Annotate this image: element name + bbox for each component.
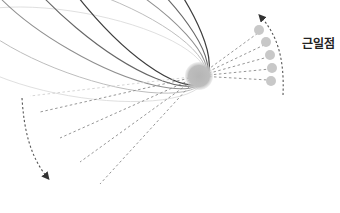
aphelion-direction-arrow-icon [22,98,47,177]
precession-diagram [0,0,340,213]
orbits-group [0,0,236,119]
perihelion-point [261,37,271,47]
sun-icon [185,62,213,90]
orbit-1 [0,0,213,119]
radial-dashed-lines [30,33,270,184]
orbit-3 [0,0,226,116]
perihelion-point [266,76,276,86]
perihelion-point [265,50,275,60]
orbit-5 [2,0,236,108]
perihelion-label: 근일점 [302,34,335,51]
orbit-2 [0,0,220,118]
perihelion-point [267,63,277,73]
perihelion-point [254,25,264,35]
perihelion-points [254,25,277,86]
